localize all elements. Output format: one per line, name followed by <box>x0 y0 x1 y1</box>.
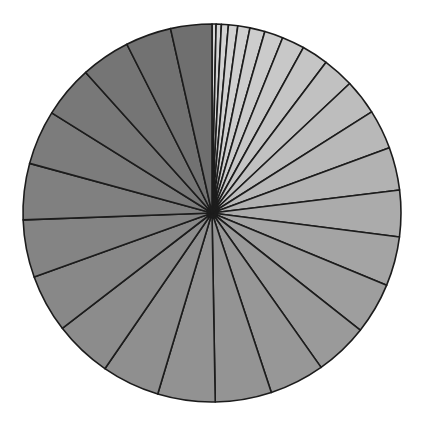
pie-chart-figure <box>0 0 424 430</box>
pie-chart-page <box>0 0 424 430</box>
pie-chart-svg <box>0 0 424 430</box>
pie-slice-group <box>23 24 401 402</box>
